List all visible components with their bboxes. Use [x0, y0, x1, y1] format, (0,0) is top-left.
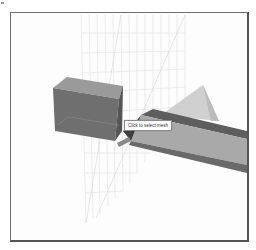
- tooltip: Click to select mesh: [124, 120, 172, 131]
- box-mesh[interactable]: [53, 77, 123, 141]
- 3d-viewport[interactable]: Click to select mesh: [10, 12, 249, 242]
- corner-mark: [1, 2, 4, 4]
- channel-mesh[interactable]: [117, 109, 247, 173]
